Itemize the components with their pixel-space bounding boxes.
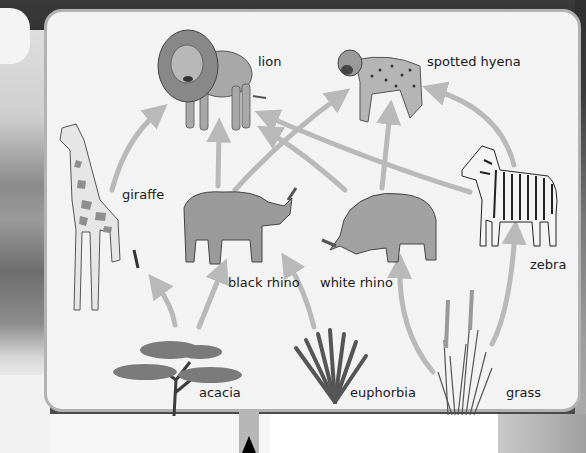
label-black-rhino: black rhino — [228, 275, 300, 290]
zebra-illustration — [462, 146, 557, 246]
arrow-grass-to-white-rhino — [400, 266, 433, 372]
arrow-euphorbia-to-black-rhino — [288, 263, 314, 327]
acacia-illustration — [113, 341, 242, 416]
label-white-rhino: white rhino — [320, 275, 393, 290]
label-zebra: zebra — [530, 257, 566, 272]
arrow-zebra-to-lion — [266, 116, 470, 192]
lion-illustration — [158, 30, 266, 130]
arrow-giraffe-to-lion — [112, 112, 158, 190]
label-lion: lion — [258, 54, 281, 69]
label-giraffe: giraffe — [122, 187, 164, 202]
white-rhino-illustration — [322, 193, 436, 262]
spotted-hyena-illustration — [338, 50, 422, 122]
label-acacia: acacia — [199, 385, 241, 400]
grass-illustration — [438, 290, 492, 415]
arrow-white-rhino-to-hyena — [382, 112, 390, 188]
label-spotted-hyena: spotted hyena — [427, 54, 521, 69]
arrow-black-rhino-to-lion — [218, 130, 219, 186]
label-euphorbia: euphorbia — [350, 385, 416, 400]
arrow-acacia-to-black-rhino — [199, 270, 222, 327]
triangle-pointer-icon — [242, 436, 256, 453]
arrow-grass-to-zebra — [492, 232, 515, 344]
black-rhino-illustration — [184, 188, 296, 264]
label-grass: grass — [506, 385, 541, 400]
arrow-zebra-to-hyena — [434, 90, 514, 165]
arrow-acacia-to-giraffe — [156, 284, 175, 325]
arrow-white-rhino-to-lion — [268, 132, 345, 190]
